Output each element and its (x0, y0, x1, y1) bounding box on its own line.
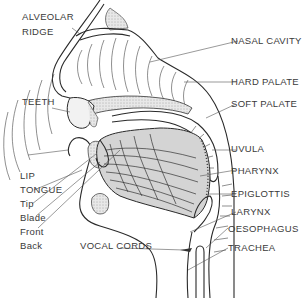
label-alveolar-ridge: ALVEOLAR (22, 12, 74, 22)
label-trachea: TRACHEA (228, 243, 276, 253)
label-hard-palate: HARD PALATE (231, 77, 299, 87)
label-teeth: TEETH (22, 97, 55, 107)
label-epiglottis: EPIGLOTTIS (231, 189, 290, 199)
label-pharynx: PHARYNX (231, 166, 279, 176)
label-tongue-tip: Tip (20, 199, 34, 209)
label-vocal-cords: VOCAL CORDS (80, 241, 152, 251)
label-soft-palate: SOFT PALATE (231, 99, 297, 109)
label-tongue-blade: Blade (20, 213, 46, 223)
speech-organs-diagram: ALVEOLAR RIDGE TEETH LIP TONGUE Tip Blad… (0, 0, 308, 298)
label-oesophagus: OESOPHAGUS (228, 224, 299, 234)
label-lip: LIP (20, 171, 35, 181)
label-tongue-front: Front (20, 227, 44, 237)
label-uvula: UVULA (231, 144, 264, 154)
label-tongue: TONGUE (20, 185, 62, 195)
label-nasal-cavity: NASAL CAVITY (231, 36, 302, 46)
label-tongue-back: Back (20, 241, 42, 251)
label-alveolar-ridge-2: RIDGE (22, 27, 54, 37)
label-larynx: LARYNX (231, 207, 271, 217)
